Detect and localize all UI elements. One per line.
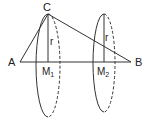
label-m1: M1 — [42, 66, 54, 78]
diagram-canvas: A B C r r M1 M2 — [0, 0, 148, 127]
label-m1-sub: 1 — [50, 71, 54, 78]
label-a: A — [8, 56, 16, 68]
segment-cb — [48, 14, 131, 62]
label-m2: M2 — [97, 66, 109, 78]
segment-ac — [20, 14, 48, 62]
circle-m2-back — [104, 14, 115, 112]
label-r1: r — [50, 36, 54, 47]
geometry-figure: A B C r r M1 M2 — [0, 0, 148, 127]
label-r2: r — [105, 32, 109, 43]
label-m2-main: M — [97, 66, 105, 77]
label-c: C — [43, 1, 51, 13]
label-b: B — [135, 56, 142, 68]
label-m1-main: M — [42, 66, 50, 77]
circle-m2-front — [93, 14, 104, 112]
label-m2-sub: 2 — [105, 71, 109, 78]
